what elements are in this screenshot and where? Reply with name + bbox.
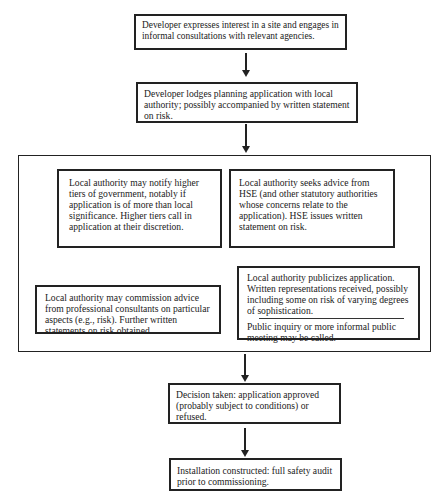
arrow-1 bbox=[245, 53, 247, 71]
step-publicize-application: Local authority publicizes application. … bbox=[237, 266, 420, 340]
step-decision: Decision taken: application approved (pr… bbox=[168, 383, 341, 424]
step-professional-consultants-text: Local authority may commission advice fr… bbox=[45, 292, 210, 336]
arrow-2 bbox=[245, 124, 247, 147]
separator-line bbox=[259, 318, 404, 319]
step-decision-text: Decision taken: application approved (pr… bbox=[176, 389, 319, 422]
step-notify-higher-tiers-text: Local authority may notify higher tiers … bbox=[69, 177, 199, 232]
step-installation-text: Installation constructed: full safety au… bbox=[177, 465, 332, 487]
step-installation: Installation constructed: full safety au… bbox=[169, 458, 342, 491]
step-professional-consultants: Local authority may commission advice fr… bbox=[35, 285, 221, 334]
arrow-4 bbox=[244, 428, 246, 451]
step-planning-application: Developer lodges planning application wi… bbox=[136, 82, 358, 123]
step-developer-interest-text: Developer expresses interest in a site a… bbox=[142, 20, 339, 41]
step-hse-advice-text: Local authority seeks advice from HSE (a… bbox=[239, 177, 378, 232]
step-hse-advice: Local authority seeks advice from HSE (a… bbox=[229, 169, 395, 248]
step-notify-higher-tiers: Local authority may notify higher tiers … bbox=[57, 169, 222, 248]
step-publicize-application-text: Local authority publicizes application. … bbox=[247, 272, 408, 316]
step-developer-interest: Developer expresses interest in a site a… bbox=[134, 14, 347, 50]
step-public-inquiry-text: Public inquiry or more informal public m… bbox=[247, 321, 396, 343]
arrow-3 bbox=[244, 354, 246, 376]
step-planning-application-text: Developer lodges planning application wi… bbox=[144, 88, 349, 121]
